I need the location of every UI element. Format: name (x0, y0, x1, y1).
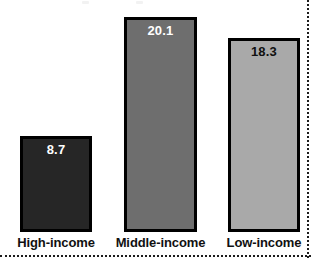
plot-area: 8.7 20.1 18.3 (0, 0, 307, 232)
category-label-middle-income: Middle-income (110, 235, 211, 251)
bar-high-income: 8.7 (20, 136, 92, 232)
bar-group-middle-income: 20.1 (124, 17, 197, 232)
bar-chart: 8.7 20.1 18.3 High-income Middle-income … (0, 0, 321, 265)
bar-value-label-low-income: 18.3 (231, 44, 297, 59)
category-label-low-income: Low-income (214, 235, 314, 251)
bar-low-income: 18.3 (228, 38, 300, 232)
bar-value-label-high-income: 8.7 (23, 142, 89, 157)
frame-bottom-dotted-edge (0, 255, 311, 257)
bar-middle-income: 20.1 (124, 17, 197, 232)
category-label-high-income: High-income (6, 235, 106, 251)
bar-value-label-middle-income: 20.1 (127, 23, 194, 38)
frame-right-dotted-edge (307, 0, 309, 258)
bar-group-high-income: 8.7 (20, 136, 92, 232)
bar-group-low-income: 18.3 (228, 38, 300, 232)
